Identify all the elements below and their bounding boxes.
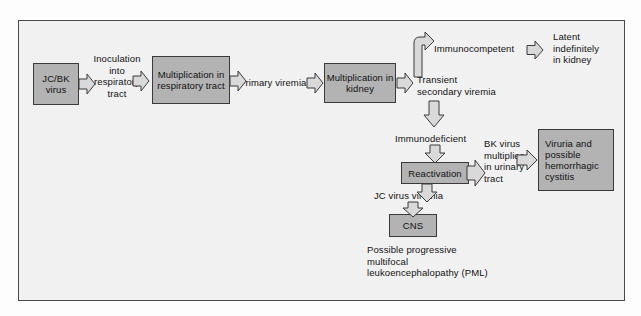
node-reactivation: Reactivation <box>401 162 469 184</box>
arrow-jc-viremia-to-cns <box>403 202 423 217</box>
node-viruria-hemorrhagic-cystitis: Viruria and possible hemorrhagic cystiti… <box>538 129 614 191</box>
label-immunodeficient: Immunodeficient <box>395 133 479 145</box>
node-jcbk-virus: JC/BK virus <box>33 63 79 105</box>
arrow-transient-to-immunodeficient <box>424 101 444 127</box>
arrow-mult-respiratory-to-primary-viremia <box>230 71 246 91</box>
arrow-reactivation-to-bk-virus <box>467 160 485 186</box>
label-transient-secondary-viremia: Transient secondary viremia <box>417 74 513 97</box>
arrow-bk-virus-to-viruria <box>517 150 537 170</box>
label-pml: Possible progressive multifocal leukoenc… <box>367 244 527 279</box>
label-immunocompetent: Immunocompetent <box>434 43 524 55</box>
arrow-immunocompetent-to-latent <box>527 41 543 59</box>
arrow-jcbk-to-inoculation <box>79 74 95 94</box>
arrow-primary-viremia-to-kidney <box>307 73 323 93</box>
diagram-frame: JC/BK virus Multiplication in respirator… <box>18 20 625 301</box>
figure-canvas: JC/BK virus Multiplication in respirator… <box>0 0 641 316</box>
arrow-reactivation-to-jc-viremia <box>417 184 437 202</box>
arrow-inoculation-to-mult-respiratory <box>133 71 149 91</box>
node-multiplication-kidney: Multiplication in kidney <box>324 63 396 103</box>
arrow-transient-to-immunocompetent <box>412 35 436 77</box>
label-latent-indefinitely-in-kidney: Latent indefinitely in kidney <box>553 31 623 66</box>
arrow-immunodeficient-to-reactivation <box>425 145 445 163</box>
arrow-kidney-to-transient-viremia <box>397 73 413 93</box>
node-multiplication-respiratory-tract: Multiplication in respiratory tract <box>152 56 230 104</box>
